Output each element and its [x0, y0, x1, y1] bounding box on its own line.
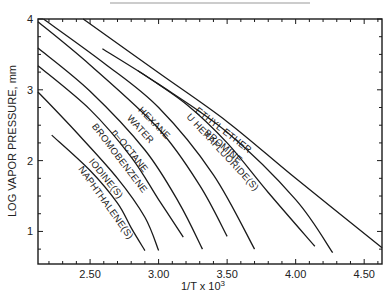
x-axis-title-exponent: 3 — [221, 279, 226, 288]
y-axis-title: LOG VAPOR PRESSURE, mm — [6, 65, 18, 217]
y-tick-label: 1 — [27, 225, 33, 237]
axis-ticks: 2.503.003.504.004.501234 — [27, 13, 382, 280]
vapor-pressure-chart: 2.503.003.504.004.501234 ETHYL ETHERBROM… — [0, 0, 392, 295]
x-axis-title-base: 1/T x 10 — [181, 280, 221, 292]
y-tick-label: 4 — [27, 13, 33, 25]
x-axis-title: 1/T x 103 — [181, 279, 226, 292]
x-tick-label: 2.50 — [79, 268, 100, 280]
y-tick-label: 3 — [27, 84, 33, 96]
x-tick-label: 4.50 — [353, 268, 374, 280]
y-tick-label: 2 — [27, 155, 33, 167]
x-tick-label: 4.00 — [285, 268, 306, 280]
x-tick-label: 3.00 — [148, 268, 169, 280]
